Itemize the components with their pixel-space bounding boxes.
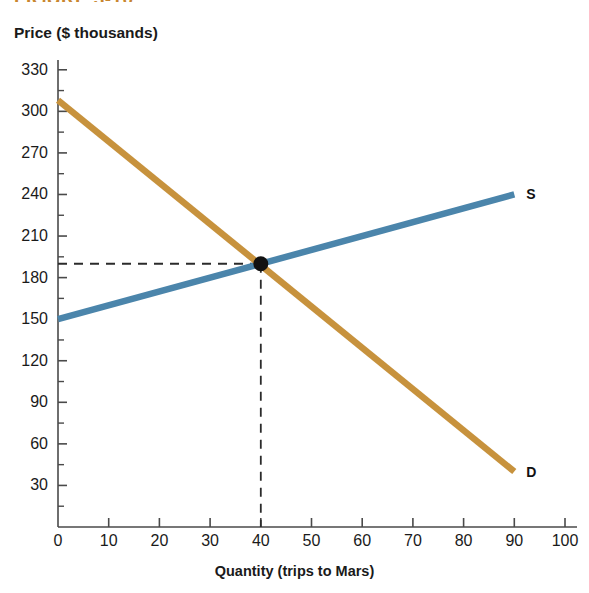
equilibrium-point: [253, 256, 268, 271]
figure-container: FIGURE 3-10 Price ($ thousands) 30609012…: [0, 0, 589, 593]
chart-svg: [0, 0, 589, 593]
y-tick-label: 210: [6, 227, 48, 245]
x-axis-title: Quantity (trips to Mars): [0, 563, 589, 579]
y-tick-label: 180: [6, 269, 48, 287]
y-tick-label: 240: [6, 185, 48, 203]
x-tick-label: 50: [290, 532, 334, 550]
y-tick-label: 300: [6, 102, 48, 120]
x-tick-label: 100: [543, 532, 587, 550]
plot-area: [0, 0, 589, 593]
x-tick-label: 80: [442, 532, 486, 550]
equilibrium-marker: [253, 256, 268, 271]
y-tick-label: 90: [6, 393, 48, 411]
curve-line-demand: [58, 100, 514, 471]
x-tick-marks: [109, 518, 565, 527]
x-tick-label: 30: [188, 532, 232, 550]
x-tick-label: 40: [239, 532, 283, 550]
x-tick-label: 90: [492, 532, 536, 550]
x-tick-label: 0: [36, 532, 80, 550]
x-tick-label: 10: [87, 532, 131, 550]
y-tick-label: 120: [6, 352, 48, 370]
x-tick-label: 70: [391, 532, 435, 550]
y-tick-label: 60: [6, 435, 48, 453]
y-tick-label: 150: [6, 310, 48, 328]
y-tick-label: 270: [6, 144, 48, 162]
curve-label-d: D: [526, 464, 536, 480]
x-tick-label: 20: [137, 532, 181, 550]
curve-line-supply: [58, 194, 514, 319]
curve-label-s: S: [526, 186, 535, 202]
equilibrium-guide-lines: [58, 264, 261, 527]
y-tick-label: 30: [6, 476, 48, 494]
y-tick-marks: [58, 70, 67, 506]
curve-lines: [58, 100, 514, 471]
x-tick-label: 60: [340, 532, 384, 550]
y-tick-label: 330: [6, 61, 48, 79]
